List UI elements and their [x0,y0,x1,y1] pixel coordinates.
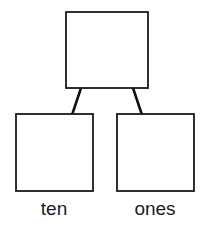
connector-parent-to-ones [133,88,142,115]
diagram-canvas: ten ones [0,0,210,230]
tens-place-box[interactable] [16,114,93,191]
connector-parent-to-ten [72,88,81,115]
ones-place-box[interactable] [117,114,194,191]
tens-box-label: ten [41,198,67,219]
place-value-diagram: ten ones [0,0,210,230]
ones-box-label: ones [134,198,175,219]
parent-total-box[interactable] [66,12,148,88]
